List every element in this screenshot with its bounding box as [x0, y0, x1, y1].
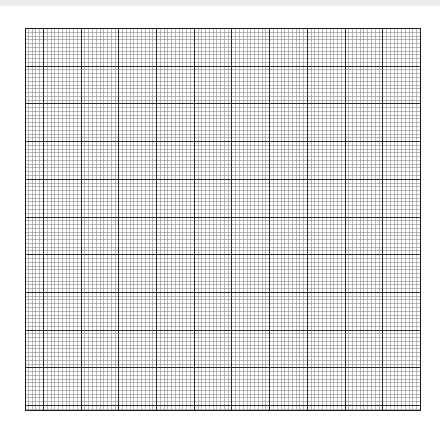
- graph-paper: [0, 0, 440, 427]
- grid-canvas: [0, 0, 440, 427]
